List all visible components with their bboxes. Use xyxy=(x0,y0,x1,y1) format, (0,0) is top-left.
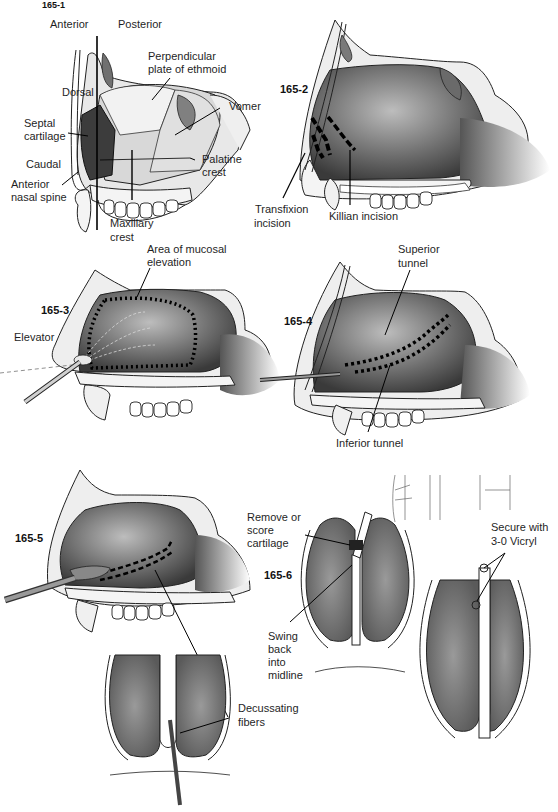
illustration-canvas xyxy=(0,0,558,812)
label-inferior-tunnel: Inferior tunnel xyxy=(336,437,403,450)
label-transfixion-incision-line1: Transfixion xyxy=(255,203,308,216)
label-swing-back-line2: back xyxy=(268,643,291,656)
label-maxillary-crest-line1: Maxillary xyxy=(110,217,153,230)
figure-165-6-nostril-views xyxy=(290,475,530,738)
label-anterior: Anterior xyxy=(50,18,89,31)
label-vomer: Vomer xyxy=(229,100,261,113)
label-transfixion-incision-line2: incision xyxy=(254,217,291,230)
figure-165-5-nostril-view xyxy=(105,655,230,805)
label-perpendicular-plate-line1: Perpendicular xyxy=(148,50,216,63)
figure-165-3-mucosal-elevation xyxy=(0,268,280,420)
label-remove-or-score-line2: score xyxy=(247,524,274,537)
figure-165-4-tunnels xyxy=(260,262,530,435)
label-remove-or-score-line1: Remove or xyxy=(247,511,301,524)
figure-number-165-5: 165-5 xyxy=(15,532,43,544)
figure-165-2-incisions xyxy=(283,20,550,210)
label-septal-cartilage-line2: cartilage xyxy=(24,130,66,143)
label-posterior: Posterior xyxy=(118,18,162,31)
label-secure-vicryl-line2: 3-0 Vicryl xyxy=(491,535,537,548)
label-anterior-nasal-spine-line1: Anterior xyxy=(11,178,50,191)
label-secure-vicryl-line1: Secure with xyxy=(491,521,548,534)
label-superior-tunnel-line1: Superior xyxy=(398,243,440,256)
label-decussating-fibers-line2: fibers xyxy=(238,716,265,729)
label-perpendicular-plate-line2: plate of ethmoid xyxy=(148,63,226,76)
figure-number-165-4: 165-4 xyxy=(284,315,312,327)
figure-number-165-6: 165-6 xyxy=(264,569,292,581)
label-superior-tunnel-line2: tunnel xyxy=(398,257,428,270)
figure-number-165-1: 165-1 xyxy=(42,0,65,10)
label-elevator: Elevator xyxy=(14,331,54,344)
label-dorsal: Dorsal xyxy=(62,86,94,99)
label-remove-or-score-line3: cartilage xyxy=(247,537,289,550)
label-mucosal-elevation-line1: Area of mucosal xyxy=(147,243,226,256)
label-swing-back-line4: midline xyxy=(268,669,303,682)
figure-number-165-3: 165-3 xyxy=(41,304,69,316)
label-maxillary-crest-line2: crest xyxy=(110,231,134,244)
figure-number-165-2: 165-2 xyxy=(280,83,308,95)
label-anterior-nasal-spine-line2: nasal spine xyxy=(11,191,67,204)
label-killian-incision: Killian incision xyxy=(329,210,398,223)
label-caudal: Caudal xyxy=(26,158,61,171)
label-decussating-fibers-line1: Decussating xyxy=(238,702,299,715)
label-palatine-crest-line1: Palatine xyxy=(202,153,242,166)
label-mucosal-elevation-line2: elevation xyxy=(147,256,191,269)
label-palatine-crest-line2: crest xyxy=(202,166,226,179)
label-swing-back-line1: Swing xyxy=(268,630,298,643)
label-swing-back-line3: into xyxy=(268,656,286,669)
label-septal-cartilage-line1: Septal xyxy=(24,117,55,130)
